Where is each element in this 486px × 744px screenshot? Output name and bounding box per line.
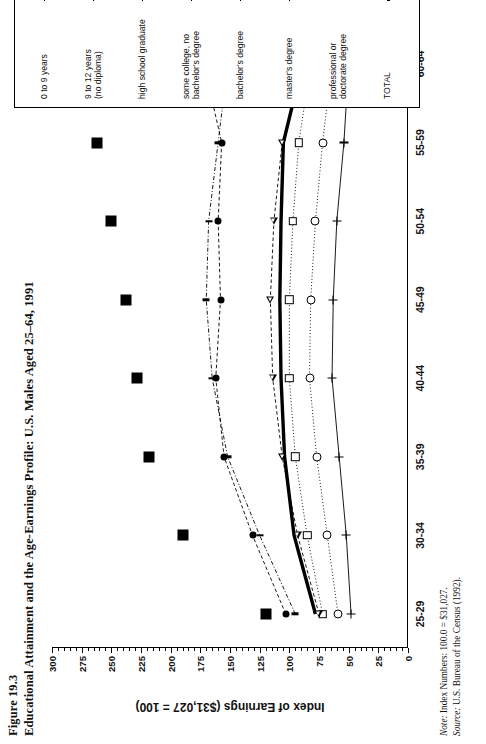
legend-item-label: high school graduate	[137, 7, 147, 99]
y-tick-label: 150	[225, 656, 236, 672]
legend-item-symbol	[86, 0, 100, 1]
legend-item-symbol	[380, 0, 394, 1]
y-tick	[378, 648, 379, 653]
y-minor-tick	[301, 648, 302, 651]
y-minor-tick	[76, 648, 77, 651]
y-minor-tick	[337, 648, 338, 651]
y-tick	[230, 648, 231, 653]
series-line	[280, 64, 316, 614]
legend-item-symbol	[37, 0, 51, 1]
legend-item: master's degree	[266, 0, 312, 107]
y-minor-tick	[194, 648, 195, 651]
y-minor-tick	[313, 648, 314, 651]
legend-item-label: master's degree	[284, 7, 294, 99]
legend-line-sample	[142, 0, 143, 1]
y-minor-tick	[390, 648, 391, 651]
y-tick	[289, 648, 290, 653]
y-tick-label: 225	[136, 656, 147, 672]
legend-item: TOTAL	[364, 0, 410, 107]
y-tick-label: 125	[254, 656, 265, 672]
rotated-figure-canvas: Figure 19.3 Educational Attainment and t…	[0, 0, 486, 744]
source-label: Source:	[452, 707, 462, 736]
source-text: U.S. Bureau of the Census (1992).	[452, 577, 462, 707]
y-tick	[52, 648, 53, 653]
y-tick-label: 200	[165, 656, 176, 672]
y-minor-tick	[64, 648, 65, 651]
y-minor-tick	[105, 648, 106, 651]
legend-item-label: TOTAL	[382, 7, 392, 99]
y-tick-label: 100	[284, 656, 295, 672]
y-minor-tick	[355, 648, 356, 651]
y-tick-label: 175	[195, 656, 206, 672]
legend-item-label: some college, nobachelor's degree	[181, 7, 201, 99]
y-minor-tick	[183, 648, 184, 651]
y-minor-tick	[236, 648, 237, 651]
y-minor-tick	[94, 648, 95, 651]
y-minor-tick	[206, 648, 207, 651]
legend-item-symbol	[331, 0, 345, 1]
legend-line-sample	[240, 0, 241, 1]
y-minor-tick	[366, 648, 367, 651]
legend-item-label: 9 to 12 years(no diploma)	[83, 7, 103, 99]
y-tick	[82, 648, 83, 653]
y-minor-tick	[129, 648, 130, 651]
y-tick-label: 300	[47, 656, 58, 672]
y-tick	[408, 648, 409, 653]
y-minor-tick	[361, 648, 362, 651]
y-minor-tick	[384, 648, 385, 651]
y-minor-tick	[123, 648, 124, 651]
y-minor-tick	[224, 648, 225, 651]
legend-item-symbol	[184, 0, 198, 1]
y-minor-tick	[159, 648, 160, 651]
y-minor-tick	[99, 648, 100, 651]
legend-item: professional ordoctorate degree	[315, 0, 361, 107]
y-minor-tick	[212, 648, 213, 651]
figure-title-block: Figure 19.3 Educational Attainment and t…	[6, 136, 37, 736]
series-line	[204, 64, 286, 614]
x-tick-label: 30-34	[415, 522, 426, 549]
y-minor-tick	[117, 648, 118, 651]
y-tick-label: 0	[403, 656, 414, 661]
y-minor-tick	[343, 648, 344, 651]
y-tick-label: 50	[343, 656, 354, 667]
x-tick-label: 55-59	[415, 129, 426, 156]
y-minor-tick	[248, 648, 249, 651]
y-tick	[319, 648, 320, 653]
y-minor-tick	[266, 648, 267, 651]
series-line	[332, 64, 351, 614]
y-minor-tick	[147, 648, 148, 651]
y-minor-tick	[177, 648, 178, 651]
y-minor-tick	[295, 648, 296, 651]
legend-item-symbol	[233, 0, 247, 1]
y-minor-tick	[135, 648, 136, 651]
y-tick	[260, 648, 261, 653]
legend-item-label: professional ordoctorate degree	[328, 7, 348, 99]
y-minor-tick	[88, 648, 89, 651]
y-minor-tick	[402, 648, 403, 651]
series-lines	[52, 38, 408, 648]
y-axis-title: Index of Earnings ($31,027 = 100)	[135, 700, 324, 714]
y-minor-tick	[165, 648, 166, 651]
y-tick-label: 250	[106, 656, 117, 672]
legend-item-label: 0 to 9 years	[39, 7, 49, 99]
legend-item: bachelor's degree	[217, 0, 263, 107]
y-tick-label: 25	[373, 656, 384, 667]
y-minor-tick	[277, 648, 278, 651]
y-minor-tick	[396, 648, 397, 651]
y-tick	[141, 648, 142, 653]
legend-line-sample	[387, 0, 390, 1]
x-tick-label: 45-49	[415, 286, 426, 313]
legend-line-sample	[191, 0, 192, 1]
legend-item: high school graduate	[119, 0, 165, 107]
figure-notes: Note: Index Numbers: 100.0 = $31,027. So…	[438, 316, 463, 736]
x-tick-label: 25-29	[415, 601, 426, 628]
y-tick-label: 75	[314, 656, 325, 667]
y-minor-tick	[70, 648, 71, 651]
chart-legend: 0 to 9 years9 to 12 years(no diploma)hig…	[14, 0, 420, 108]
note-line: Note: Index Numbers: 100.0 = $31,027.	[438, 316, 451, 736]
y-minor-tick	[272, 648, 273, 651]
note-label: Note:	[439, 715, 449, 736]
figure-number: Figure 19.3	[6, 136, 22, 736]
y-minor-tick	[218, 648, 219, 651]
y-minor-tick	[325, 648, 326, 651]
